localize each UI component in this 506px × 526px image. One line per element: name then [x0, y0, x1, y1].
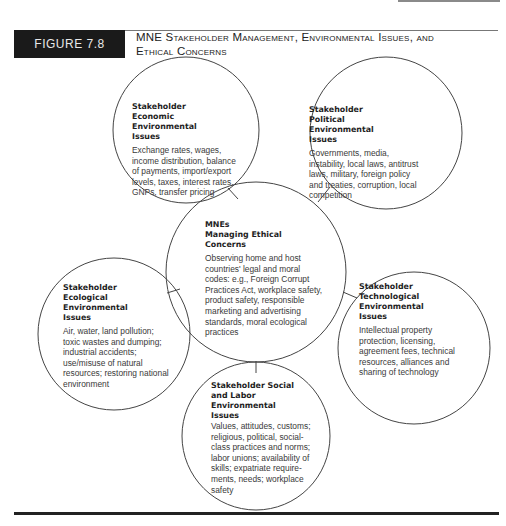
node-political-body: Governments, media, instability, local l…: [309, 148, 421, 201]
node-political-heading: Stakeholder Political Environmental Issu…: [309, 105, 399, 145]
node-social-body: Values, attitudes, customs; religious, p…: [211, 421, 319, 495]
node-social-heading: Stakeholder Social and Labor Environment…: [211, 381, 297, 421]
node-technological: Stakeholder Technological Environmental …: [359, 282, 469, 378]
node-center-mne: MNEs Managing Ethical Concerns Observing…: [205, 220, 325, 338]
node-ecological-body: Air, water, land pollution; toxic wastes…: [63, 326, 171, 390]
node-ecological-heading: Stakeholder Ecological Environmental Iss…: [63, 283, 143, 323]
node-center-heading-line2: Managing Ethical Concerns: [205, 230, 325, 250]
connector-technological: [343, 292, 357, 298]
node-technological-heading: Stakeholder Technological Environmental …: [359, 282, 445, 322]
node-political: Stakeholder Political Environmental Issu…: [309, 105, 421, 201]
node-ecological: Stakeholder Ecological Environmental Iss…: [63, 283, 173, 390]
node-economic-heading: Stakeholder Economic Environmental Issue…: [132, 102, 224, 142]
footer-rule: [14, 512, 499, 515]
node-social: Stakeholder Social and Labor Environment…: [211, 381, 321, 495]
node-center-heading-line1: MNEs: [205, 220, 325, 230]
node-economic-body: Exchange rates, wages, income distributi…: [132, 145, 238, 198]
footer-source-clipped: [50, 519, 350, 526]
node-economic: Stakeholder Economic Environmental Issue…: [132, 102, 240, 198]
node-center-body: Observing home and host countries' legal…: [205, 253, 323, 338]
node-technological-body: Intellectual property protection, licens…: [359, 325, 467, 378]
